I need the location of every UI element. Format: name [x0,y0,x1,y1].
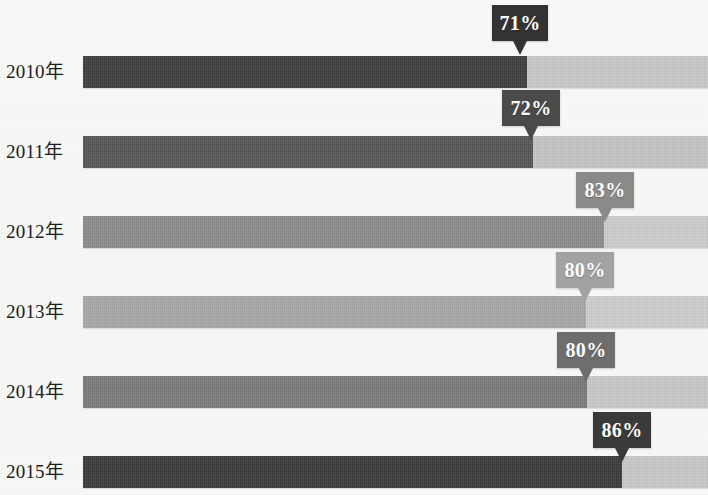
data-label-callout: 80% [557,332,615,368]
callout-pointer-icon [615,448,629,462]
stacked-bar[interactable] [83,376,708,408]
chart-row: 2010年 [0,46,708,126]
data-label-value: 71% [499,12,540,35]
data-label-callout: 86% [593,412,651,448]
callout-pointer-icon [578,288,592,302]
bar-segment-primary[interactable] [83,216,604,248]
chart-row: 2015年 [0,446,708,495]
stacked-bar[interactable] [83,136,708,168]
data-label-value: 72% [510,97,551,120]
callout-pointer-icon [598,208,612,222]
bar-segment-remainder[interactable] [604,216,708,248]
bar-segment-primary[interactable] [83,136,533,168]
callout-pointer-icon [524,126,538,140]
callout-pointer-icon [513,41,527,55]
bar-segment-primary[interactable] [83,296,586,328]
bar-segment-remainder[interactable] [587,376,708,408]
bar-segment-primary[interactable] [83,456,622,488]
stacked-bar[interactable] [83,56,708,88]
bar-segment-remainder[interactable] [622,456,708,488]
bar-segment-remainder[interactable] [533,136,708,168]
bar-segment-remainder[interactable] [586,296,708,328]
bar-segment-remainder[interactable] [527,56,708,88]
stacked-bar[interactable] [83,216,708,248]
data-label-value: 80% [565,339,606,362]
year-axis-label: 2015年 [6,462,78,481]
callout-pointer-icon [579,368,593,382]
bar-segment-primary[interactable] [83,376,587,408]
data-label-value: 86% [601,419,642,442]
data-label-callout: 80% [556,252,614,288]
data-label-callout: 83% [576,172,634,208]
year-axis-label: 2010年 [6,62,78,81]
year-axis-label: 2012年 [6,222,78,241]
data-label-value: 80% [564,259,605,282]
stacked-bar[interactable] [83,296,708,328]
data-label-callout: 72% [502,90,560,126]
data-label-value: 83% [584,179,625,202]
data-label-callout: 71% [492,5,548,41]
bar-segment-primary[interactable] [83,56,527,88]
year-axis-label: 2014年 [6,382,78,401]
year-axis-label: 2011年 [6,142,78,161]
year-axis-label: 2013年 [6,302,78,321]
